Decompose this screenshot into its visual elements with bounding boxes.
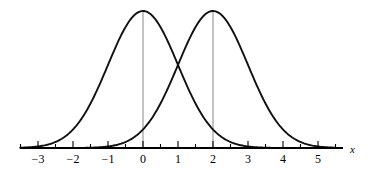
guide-lines: [143, 11, 213, 148]
x-tick-label: 4: [271, 152, 295, 166]
x-axis-label: x: [350, 143, 355, 155]
x-tick-label: 5: [306, 152, 330, 166]
x-tick-label: −1: [96, 152, 120, 166]
x-tick-label: 1: [166, 152, 190, 166]
x-tick-label: −2: [61, 152, 85, 166]
curve-normal-mean-2: [21, 11, 336, 148]
curves: [21, 11, 336, 148]
curve-normal-mean-0: [21, 11, 336, 148]
x-tick-label: 2: [201, 152, 225, 166]
x-tick-label: −3: [26, 152, 50, 166]
gaussian-curves-figure: −3−2−1012345 x: [0, 0, 369, 173]
x-tick-label: 3: [236, 152, 260, 166]
x-tick-label: 0: [131, 152, 155, 166]
plot-area: [0, 0, 369, 173]
